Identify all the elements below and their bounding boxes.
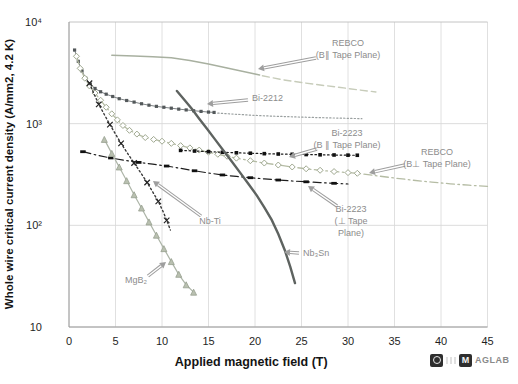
x-tick-label: 10	[156, 335, 168, 347]
annotation-text: Bi-2223	[331, 128, 362, 138]
series-nb3sn	[177, 91, 295, 283]
series-line-rebco-parallel-measured	[112, 55, 260, 75]
y-axis-title: Whole wire critical current density (A/m…	[3, 39, 15, 309]
x-tick-label: 15	[202, 335, 214, 347]
annotation-text: (B ∥ Tape Plane)	[314, 140, 381, 150]
x-tick-labels: 051015202530354045	[66, 335, 494, 347]
series-line-bi2212-extrapolated	[218, 113, 362, 119]
annotation-rebco-parallel-label: REBCO(B∥ Tape Plane)	[258, 38, 380, 71]
maglab-faint-text	[446, 357, 456, 364]
x-tick-label: 20	[249, 335, 261, 347]
series-line-bi2212-measured	[75, 50, 215, 112]
annotation-text: (B∥ Tape Plane)	[316, 50, 380, 60]
series-rebco-parallel-extrapolated	[262, 76, 376, 92]
maglab-m-icon: M	[459, 354, 472, 367]
annotation-bi2212-label: Bi-2212	[207, 93, 283, 107]
x-tick-label: 0	[66, 335, 72, 347]
maglab-emblem-icon	[430, 354, 443, 367]
series-line-rebco-parallel-extrapolated	[262, 76, 376, 92]
x-tick-label: 45	[481, 335, 493, 347]
y-tick-label: 10⁴	[25, 16, 42, 28]
series-bi2212-measured	[73, 48, 216, 114]
series-bi2212-extrapolated	[218, 113, 362, 119]
series-rebco-parallel-measured	[112, 55, 260, 75]
annotation-nbti-label: Nb-Ti	[153, 181, 221, 226]
annotation-text: REBCO	[421, 147, 453, 157]
y-axis-title: Whole wire critical current density (A/m…	[3, 39, 15, 309]
annotation-text: REBCO	[332, 38, 364, 48]
x-tick-label: 30	[342, 335, 354, 347]
x-tick-label: 40	[435, 335, 447, 347]
annotation-text: Bi-2223	[335, 204, 366, 214]
y-tick-label: 10	[30, 321, 42, 333]
annotation-text: (⊥ Tape	[335, 216, 368, 226]
y-tick-label: 10³	[26, 118, 42, 130]
annotation-text: MgB₂	[125, 275, 148, 285]
x-axis-title: Applied magnetic field (T)	[175, 355, 328, 369]
superconductor-jc-chart: 0510152025303540451010²10³10⁴Applied mag…	[0, 0, 518, 384]
arrowhead-icon	[207, 100, 213, 107]
maglab-logo: M AGLAB	[430, 352, 510, 368]
x-axis-title: Applied magnetic field (T)	[175, 355, 328, 369]
series-line-nb3sn	[177, 91, 295, 283]
annotation-bi2223-perpendicular-label: Bi-2223(⊥ TapePlane)	[308, 186, 367, 238]
annotation-rebco-perpendicular-label: REBCO(B⊥ Tape Plane)	[369, 147, 471, 175]
x-tick-label: 25	[295, 335, 307, 347]
y-tick-label: 10²	[26, 219, 42, 231]
annotation-text: Nb₃Sn	[303, 248, 329, 258]
arrowhead-icon	[258, 64, 265, 71]
y-tick-labels: 1010²10³10⁴	[25, 16, 42, 333]
annotation-text: Bi-2212	[252, 93, 283, 103]
annotation-nb3sn-label: Nb₃Sn	[284, 248, 329, 258]
x-tick-label: 5	[112, 335, 118, 347]
annotation-mgb2-label: MgB₂	[125, 262, 166, 285]
chart-figure: 0510152025303540451010²10³10⁴Applied mag…	[0, 0, 518, 384]
x-tick-label: 35	[388, 335, 400, 347]
annotation-text: Plane)	[338, 228, 364, 238]
maglab-wordmark: AGLAB	[475, 355, 510, 365]
series-line-mgb2	[104, 139, 193, 292]
arrowhead-icon	[369, 168, 376, 175]
circle-icon	[433, 356, 441, 364]
annotation-text: Nb-Ti	[199, 216, 221, 226]
annotation-text: (B⊥ Tape Plane)	[403, 159, 470, 169]
